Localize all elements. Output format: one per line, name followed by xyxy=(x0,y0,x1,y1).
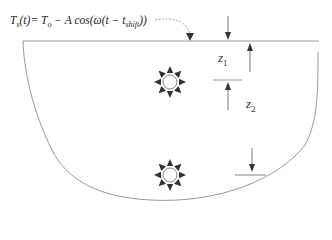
heat-ray xyxy=(154,79,161,85)
z2-down-arrowhead xyxy=(249,164,255,172)
heat-ray xyxy=(154,172,161,178)
z1-top-arrowhead xyxy=(225,32,231,40)
z1-up-arrowhead xyxy=(247,43,253,51)
heat-ray xyxy=(179,79,186,85)
heat-source-upper xyxy=(154,66,186,98)
heat-ray xyxy=(167,91,173,98)
heat-ray xyxy=(167,159,173,166)
heat-ray xyxy=(167,66,173,73)
soil-diagram xyxy=(0,0,332,240)
source-ring xyxy=(163,168,177,182)
z2-up-arrowhead xyxy=(225,82,231,90)
heat-ray xyxy=(179,172,186,178)
formula-pointer-arrowhead xyxy=(186,33,194,41)
heat-source-lower xyxy=(154,159,186,191)
source-ring xyxy=(163,75,177,89)
formula-pointer-arrow xyxy=(155,19,190,34)
heat-ray xyxy=(167,184,173,191)
